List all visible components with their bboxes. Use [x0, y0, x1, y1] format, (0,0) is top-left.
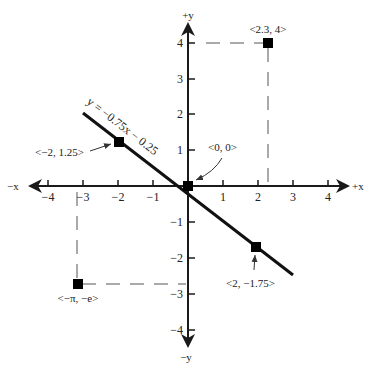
point-2-neg1.75 — [251, 242, 261, 252]
x-tick-label: 4 — [325, 190, 331, 204]
x-tick-label: 1 — [220, 190, 226, 204]
label-origin: <0, 0> — [208, 141, 237, 153]
line-equation-label: y = −0.75x − 0.25 — [84, 94, 161, 158]
y-tick-label: −3 — [170, 287, 183, 301]
y-tick-label: 4 — [177, 36, 183, 50]
label-neg2-1.25: <−2, 1.25> — [35, 146, 84, 158]
x-tick-label: −3 — [77, 190, 90, 204]
y-tick-label: 2 — [177, 107, 183, 121]
x-negative-label: −x — [7, 180, 19, 192]
arrow-2-neg1.75 — [254, 255, 255, 270]
x-positive-label: +x — [352, 180, 364, 192]
point-neg2-1.25 — [114, 137, 124, 147]
point-origin — [183, 181, 193, 191]
arrow-origin — [196, 158, 222, 180]
projection-lines — [77, 43, 268, 284]
y-tick-label: −2 — [170, 251, 183, 265]
coordinate-plane: −4 −3 −2 −1 1 2 3 4 −x +x 4 3 2 — [0, 0, 375, 374]
x-tick-label: 3 — [290, 190, 296, 204]
x-tick-label: −1 — [147, 190, 160, 204]
point-neg-pi-neg-e — [73, 279, 83, 289]
point-2.3-4 — [263, 38, 273, 48]
label-neg-pi-neg-e: <−π, −e> — [58, 292, 99, 304]
y-negative-label: −y — [180, 351, 192, 363]
arrow-neg2-1.25 — [90, 144, 111, 151]
label-2-neg1.75: <2, −1.75> — [226, 277, 275, 289]
x-tick-label: 2 — [255, 190, 261, 204]
y-tick-label: −1 — [170, 215, 183, 229]
x-tick-label: −4 — [42, 190, 55, 204]
y-tick-label: −4 — [170, 323, 183, 337]
y-positive-label: +y — [182, 9, 194, 21]
y-tick-label: 1 — [177, 143, 183, 157]
label-2.3-4: <2.3, 4> — [249, 23, 286, 35]
y-tick-label: 3 — [177, 72, 183, 86]
x-tick-label: −2 — [112, 190, 125, 204]
